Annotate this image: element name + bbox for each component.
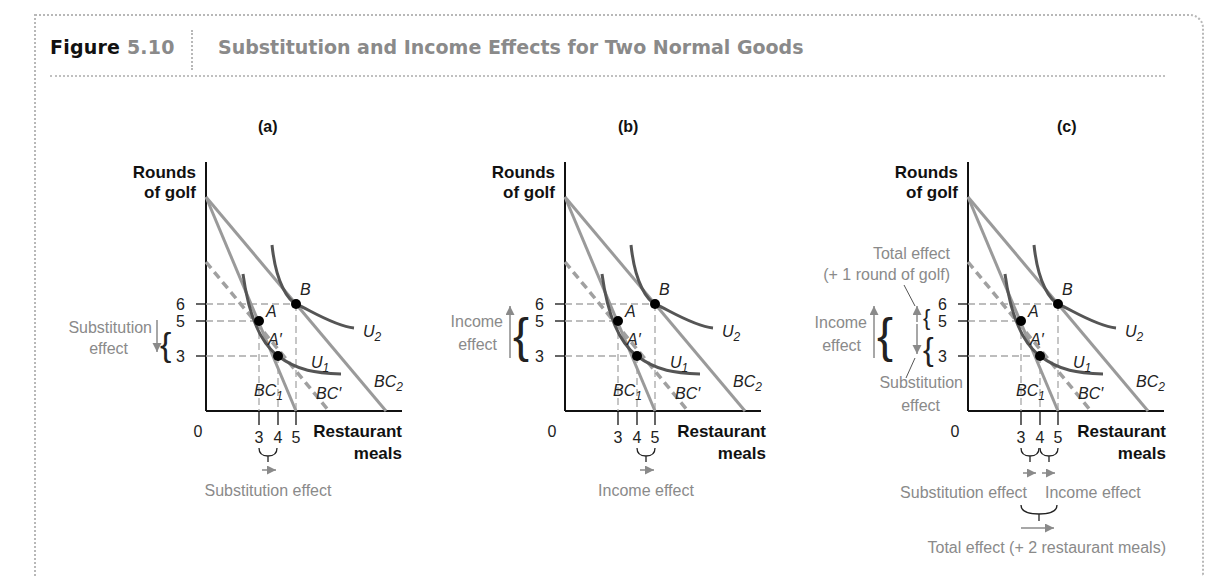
x-tick-5: 5 <box>1054 429 1063 446</box>
x-axis-label-line2: meals <box>1118 444 1166 463</box>
x-axis-label-line2: meals <box>354 444 402 463</box>
x-tick-5: 5 <box>651 429 660 446</box>
brace-icon <box>637 448 655 462</box>
y-axis-label-line1: Rounds <box>895 163 958 182</box>
y-tick-5: 5 <box>535 313 544 330</box>
substitution-effect-y-label-2: effect <box>901 397 940 414</box>
total-effect-y-label-2: (+ 1 round of golf) <box>823 266 950 283</box>
total-effect-y-label-1: Total effect <box>873 245 951 262</box>
y-tick-5: 5 <box>938 313 947 330</box>
x-tick-3: 3 <box>255 429 264 446</box>
origin-label: 0 <box>951 423 960 440</box>
panel-c: (c) Rounds of golf 6 5 3 0 3 4 5 Restaur… <box>815 118 1167 556</box>
panel-a: (a) Rounds of golf 6 5 3 0 3 4 5 Restaur… <box>68 118 403 499</box>
x-axis-label-line1: Restaurant <box>677 422 766 441</box>
brace-icon <box>1021 505 1057 521</box>
substitution-effect-x-label: Substitution effect <box>900 484 1027 501</box>
y-axis-label-line1: Rounds <box>492 163 555 182</box>
x-axis-label-line1: Restaurant <box>1077 422 1166 441</box>
substitution-effect-x-label: Substitution effect <box>205 482 332 499</box>
income-effect-y-label-2: effect <box>822 337 861 354</box>
chart-body-c <box>958 162 1165 425</box>
y-tick-3: 3 <box>938 348 947 365</box>
total-effect-x-label: Total effect (+ 2 restaurant meals) <box>928 539 1166 556</box>
panel-b: (b) Rounds of golf 6 5 3 0 3 4 5 Restaur… <box>451 118 767 499</box>
brace-icon <box>1040 448 1058 462</box>
brace-icon: { <box>513 309 529 362</box>
brace-icon <box>1021 448 1039 462</box>
income-effect-x-label: Income effect <box>1045 484 1141 501</box>
brace-icon: { <box>923 305 930 330</box>
brace-icon: { <box>923 331 934 367</box>
x-axis-label-line2: meals <box>718 444 766 463</box>
y-axis-label-line2: of golf <box>906 183 958 202</box>
income-effect-y-label-1: Income <box>451 313 504 330</box>
panel-title-a: (a) <box>258 118 278 135</box>
y-axis-label-line2: of golf <box>144 183 196 202</box>
y-axis-label-line1: Rounds <box>133 163 196 182</box>
income-effect-x-label: Income effect <box>598 482 694 499</box>
x-tick-4: 4 <box>1036 429 1045 446</box>
substitution-effect-y-label-1: Substitution <box>879 374 963 391</box>
origin-label: 0 <box>194 423 203 440</box>
total-effect-pointer <box>904 285 915 306</box>
y-axis-label-line2: of golf <box>503 183 555 202</box>
substitution-effect-y-label-2: effect <box>89 340 128 357</box>
x-tick-3: 3 <box>1017 429 1026 446</box>
x-tick-5: 5 <box>292 429 301 446</box>
panel-title-b: (b) <box>618 118 638 135</box>
y-tick-6: 6 <box>535 296 544 313</box>
substitution-effect-y-label-1: Substitution <box>68 319 152 336</box>
x-tick-3: 3 <box>614 429 623 446</box>
y-tick-6: 6 <box>938 296 947 313</box>
income-effect-y-label-1: Income <box>815 314 868 331</box>
brace-icon: { <box>160 325 171 363</box>
chart-body-b <box>555 162 762 425</box>
income-effect-y-label-2: effect <box>458 336 497 353</box>
origin-label: 0 <box>548 423 557 440</box>
y-tick-3: 3 <box>176 348 185 365</box>
chart-body-a <box>196 162 403 425</box>
x-axis-label-line1: Restaurant <box>313 422 402 441</box>
brace-icon <box>259 448 277 462</box>
x-tick-4: 4 <box>633 429 642 446</box>
panel-title-c: (c) <box>1057 118 1077 135</box>
y-tick-3: 3 <box>535 348 544 365</box>
y-tick-6: 6 <box>176 296 185 313</box>
x-tick-4: 4 <box>274 429 283 446</box>
brace-icon: { <box>877 309 893 362</box>
y-tick-5: 5 <box>176 313 185 330</box>
